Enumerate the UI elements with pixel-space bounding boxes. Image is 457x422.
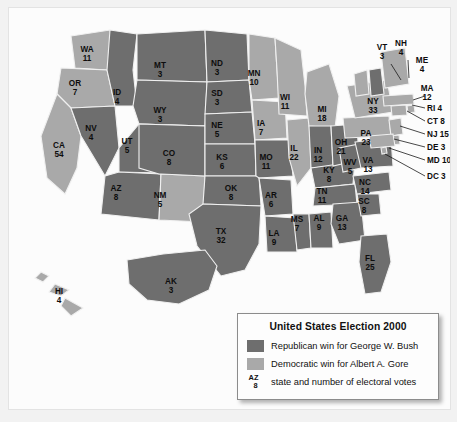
state-label-tn: TN11 (317, 187, 328, 205)
state-label-wi: WI11 (280, 93, 290, 111)
state-label-ga: GA13 (336, 214, 348, 232)
state-shape-fl (359, 234, 391, 294)
state-shape-ks (205, 144, 256, 176)
state-label-il: IL22 (289, 144, 299, 162)
state-shape-nj (389, 118, 403, 136)
state-shape-az (101, 172, 161, 220)
state-label-ny: NY33 (367, 97, 379, 115)
state-shape-wy (133, 80, 207, 126)
legend-row-sample: AZ 8 state and number of electoral votes (247, 375, 429, 388)
state-label-ca: CA54 (53, 141, 65, 159)
state-shape-hi-2 (61, 298, 83, 316)
state-label-fl: FL25 (365, 254, 375, 272)
republican-color-swatch (247, 340, 264, 352)
state-shape-mt (137, 30, 207, 82)
republican-legend-label: Republican win for George W. Bush (271, 341, 418, 351)
state-shape-nd (205, 30, 249, 82)
state-shape-me (381, 48, 409, 88)
callout-label-ct: CT 8 (427, 117, 445, 126)
state-label-pa: PA23 (361, 129, 372, 147)
state-shape-dc (381, 147, 387, 154)
state-shape-vt (354, 70, 369, 96)
states-layer (35, 30, 415, 316)
state-label-va: VA13 (363, 156, 374, 174)
callout-label-me: ME4 (416, 56, 429, 74)
democratic-legend-label: Democratic win for Albert A. Gore (271, 359, 408, 369)
state-shape-ma (383, 94, 414, 106)
sample-state-swatch: AZ 8 (247, 374, 264, 390)
election-map-figure: WA11OR7CA54NV4ID4MT3WY3UT5AZ8NM5CO8ND3SD… (8, 7, 451, 410)
state-label-oh: OH21 (335, 138, 347, 156)
state-label-tx: TX32 (216, 227, 227, 245)
state-label-in: IN12 (313, 146, 323, 164)
callout-leader-nj (400, 126, 425, 134)
map-legend: United States Election 2000 Republican w… (237, 313, 439, 400)
callout-label-ri: RI 4 (427, 104, 442, 113)
legend-row-democratic: Democratic win for Albert A. Gore (247, 357, 429, 370)
state-label-mn: MN10 (248, 69, 261, 87)
state-label-mi: MI18 (317, 105, 327, 123)
state-shape-hi-0 (35, 272, 49, 282)
legend-row-republican: Republican win for George W. Bush (247, 339, 429, 352)
callout-label-ma: MA12 (421, 84, 434, 102)
callout-leader-md (389, 148, 425, 160)
state-shape-ct (391, 105, 407, 116)
callout-label-dc: DC 3 (427, 172, 446, 181)
state-shape-nh (369, 68, 384, 96)
democratic-color-swatch (247, 358, 264, 370)
sample-legend-label: state and number of electoral votes (271, 377, 416, 387)
sample-state-votes: 8 (253, 381, 257, 390)
callout-label-md: MD 10 (427, 156, 450, 165)
callout-label-de: DE 3 (427, 143, 446, 152)
callout-label-nj: NJ 15 (427, 130, 449, 139)
state-shape-mn (249, 34, 279, 100)
legend-title: United States Election 2000 (247, 321, 429, 332)
state-label-nc: NC14 (359, 178, 371, 196)
state-shape-md (369, 134, 395, 148)
callout-leader-ct (407, 111, 425, 121)
